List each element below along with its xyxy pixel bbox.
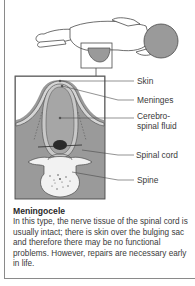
page-border-bottom bbox=[4, 278, 195, 279]
label-skin: Skin bbox=[137, 76, 153, 86]
label-csf-line1: Cerebro- bbox=[137, 111, 170, 121]
label-meninges: Meninges bbox=[137, 95, 173, 105]
caption-title: Meningocele bbox=[13, 206, 193, 217]
caption-body: In this type, the nerve tissue of the sp… bbox=[13, 217, 193, 270]
label-spine: Spine bbox=[137, 175, 158, 185]
label-csf-line2: spinal fluid bbox=[137, 121, 177, 131]
cross-section-diagram bbox=[15, 76, 105, 199]
infant-head bbox=[144, 24, 178, 58]
caption-block: Meningocele In this type, the nerve tiss… bbox=[13, 206, 193, 270]
label-spinal-cord: Spinal cord bbox=[136, 150, 178, 160]
sac-bulge bbox=[88, 48, 110, 62]
